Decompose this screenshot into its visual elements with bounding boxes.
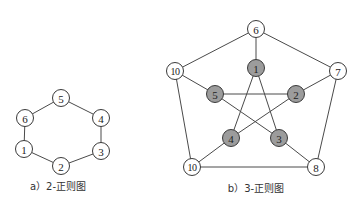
caption-b: b）3-正则图 xyxy=(228,182,284,194)
node-label: 7 xyxy=(335,66,341,78)
edge-7-8 xyxy=(316,71,338,167)
node-10b: 10 xyxy=(184,159,201,176)
node-label: 8 xyxy=(313,162,319,174)
node-7: 7 xyxy=(330,63,347,80)
edge-5-3 xyxy=(215,94,279,138)
graph-3-regular: 678101012345 b）3-正则图 xyxy=(167,21,347,195)
node-5: 5 xyxy=(207,86,224,103)
node-label: 3 xyxy=(98,146,104,158)
node-label: 5 xyxy=(58,93,64,105)
edge-10b-10a xyxy=(175,71,192,167)
node-label: 1 xyxy=(21,144,27,156)
node-label: 10 xyxy=(188,162,198,173)
node-2: 2 xyxy=(53,158,70,175)
node-label: 6 xyxy=(253,24,259,36)
edge-6-7 xyxy=(256,29,338,71)
graph-a-nodes: 123456 xyxy=(16,90,110,175)
edge-1-3 xyxy=(256,68,279,138)
edge-2-4 xyxy=(231,94,296,138)
node-4: 4 xyxy=(223,130,240,147)
node-4: 4 xyxy=(93,110,110,127)
node-10a: 10 xyxy=(167,63,184,80)
edge-10a-6 xyxy=(175,29,256,71)
graph-a-edges xyxy=(24,98,101,166)
node-2: 2 xyxy=(288,86,305,103)
node-1: 1 xyxy=(16,141,33,158)
node-6: 6 xyxy=(17,110,34,127)
node-5: 5 xyxy=(53,90,70,107)
node-label: 4 xyxy=(98,113,104,125)
edge-1-4 xyxy=(231,68,256,138)
node-label: 6 xyxy=(22,113,28,125)
graph-2-regular: 123456 a）2-正则图 xyxy=(16,90,110,193)
node-8: 8 xyxy=(308,159,325,176)
graph-b-edges xyxy=(175,29,338,167)
node-1: 1 xyxy=(248,60,265,77)
node-label: 2 xyxy=(293,89,299,101)
node-label: 4 xyxy=(228,133,234,145)
node-label: 5 xyxy=(212,89,218,101)
node-label: 3 xyxy=(276,133,282,145)
diagram-canvas: 123456 a）2-正则图 678101012345 b）3-正则图 xyxy=(0,0,363,208)
node-3: 3 xyxy=(271,130,288,147)
caption-a: a）2-正则图 xyxy=(30,180,86,192)
node-6: 6 xyxy=(248,21,265,38)
node-label: 1 xyxy=(253,63,259,75)
node-3: 3 xyxy=(93,143,110,160)
node-label: 2 xyxy=(58,161,64,173)
node-label: 10 xyxy=(171,66,181,77)
